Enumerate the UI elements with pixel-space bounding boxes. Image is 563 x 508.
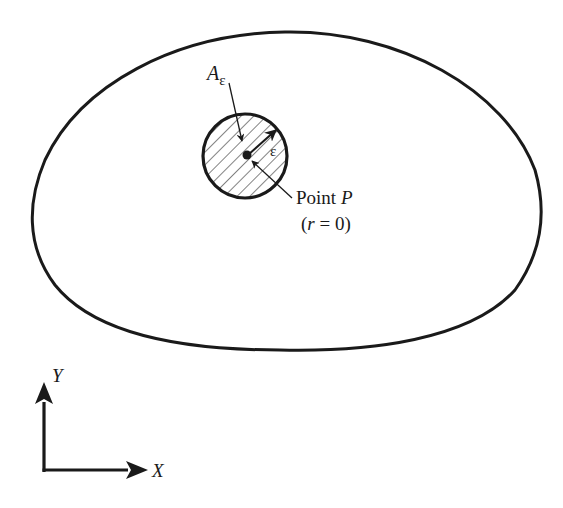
outer-region-boundary (32, 32, 541, 350)
point-p-dot (243, 151, 252, 160)
radius-epsilon-label: ε (270, 143, 276, 159)
coordinate-axes (35, 382, 148, 479)
diagram-canvas: Aε ε Point P (r = 0) Y X (0, 0, 563, 508)
a-epsilon-label: Aε (205, 62, 226, 88)
x-axis-label: X (151, 460, 165, 481)
x-axis-arrowhead-icon (126, 461, 148, 479)
point-p-label: Point P (296, 187, 353, 208)
y-axis-arrowhead-icon (35, 382, 53, 404)
point-p-condition-label: (r = 0) (301, 213, 351, 235)
y-axis-label: Y (52, 365, 65, 386)
